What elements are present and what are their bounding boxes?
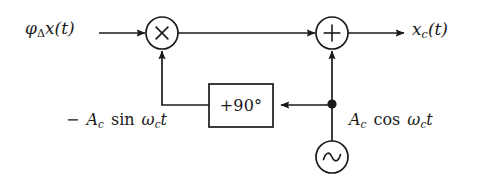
input-signal-label: φΔx(t) [25, 20, 75, 39]
lower-carrier-omega: ω [142, 110, 155, 129]
upper-carrier-omega: ω [407, 110, 420, 129]
block-diagram-figure: +90° φΔx(t) xc(t) − Ac sin ωct Ac cos ωc… [0, 0, 479, 182]
lower-carrier-function: sin [111, 110, 135, 129]
lower-carrier-time: t [161, 110, 167, 129]
lower-carrier-amplitude: A [86, 110, 98, 129]
sine-wave-icon [324, 153, 341, 161]
input-signal-phi: φ [25, 18, 37, 38]
lower-carrier-label: − Ac sin ωct [66, 112, 167, 130]
upper-carrier-function: cos [374, 110, 401, 129]
input-signal-rest: x(t) [45, 18, 75, 38]
lower-carrier-sign: − [66, 110, 79, 129]
phase-shifter-label: +90° [209, 84, 273, 127]
output-signal-base: x [412, 19, 422, 39]
output-signal-rest: (t) [428, 19, 448, 39]
input-signal-subscript: Δ [37, 27, 45, 40]
upper-carrier-amplitude: A [349, 110, 361, 129]
wire-junction-dot [327, 99, 336, 108]
output-signal-label: xc(t) [412, 21, 448, 40]
upper-carrier-label: Ac cos ωct [349, 112, 433, 130]
upper-carrier-time: t [426, 110, 432, 129]
